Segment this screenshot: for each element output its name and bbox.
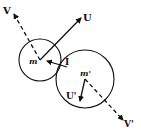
label-m: m (29, 56, 37, 66)
label-v: V (2, 5, 11, 16)
label-m-prime: m' (80, 68, 91, 78)
impulse-i-arrow (47, 61, 67, 67)
label-u: U (83, 12, 92, 23)
collision-diagram: V U m I m' U' V' (0, 0, 141, 132)
vector-v-arrow (14, 14, 40, 60)
label-u-prime: U' (66, 91, 77, 101)
vector-u-prime-arrow (80, 79, 85, 101)
label-v-prime: V' (123, 119, 134, 129)
label-i: I (65, 57, 69, 67)
vector-v-prime-arrow (85, 79, 123, 120)
